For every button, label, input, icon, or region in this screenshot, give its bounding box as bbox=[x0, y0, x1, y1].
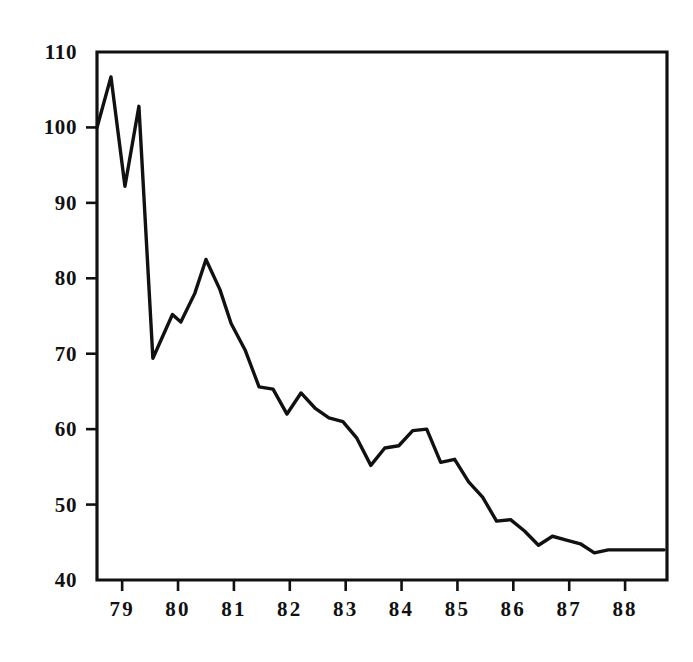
x-tick-label-81: 81 bbox=[221, 597, 246, 621]
x-tick-label-79: 79 bbox=[109, 597, 134, 621]
x-tick-label-83: 83 bbox=[333, 597, 358, 621]
x-tick-label-87: 87 bbox=[557, 597, 582, 621]
y-tick-label-60: 60 bbox=[55, 417, 77, 441]
x-tick-label-88: 88 bbox=[612, 597, 637, 621]
x-tick-label-84: 84 bbox=[389, 597, 414, 621]
x-tick-label-85: 85 bbox=[445, 597, 470, 621]
y-tick-label-40: 40 bbox=[55, 568, 77, 592]
y-tick-label-90: 90 bbox=[55, 191, 77, 215]
y-tick-label-100: 100 bbox=[44, 115, 77, 139]
x-tick-label-86: 86 bbox=[501, 597, 526, 621]
x-tick-label-80: 80 bbox=[165, 597, 190, 621]
line-chart-canvas: 405060708090100110 79808182838485868788 bbox=[0, 0, 693, 662]
chart-figure: 405060708090100110 79808182838485868788 bbox=[0, 0, 693, 662]
y-tick-label-110: 110 bbox=[45, 40, 77, 64]
x-tick-label-82: 82 bbox=[277, 597, 302, 621]
y-tick-label-70: 70 bbox=[55, 342, 77, 366]
y-tick-label-80: 80 bbox=[55, 266, 77, 290]
y-tick-label-50: 50 bbox=[55, 493, 77, 517]
